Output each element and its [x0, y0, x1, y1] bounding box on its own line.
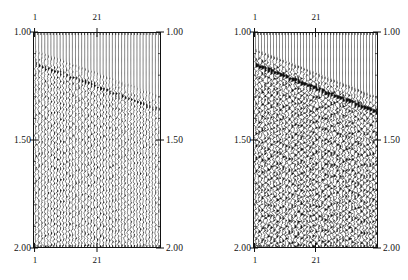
left-panel-frame: [33, 32, 161, 248]
right-panel-time-label-bottom: 2.00: [234, 244, 251, 254]
seismic-figure: 1.00 1.50 2.00 1.00 1.50 2.00 1 21 1 21 …: [0, 0, 408, 280]
left-panel-trace-label-top-21: 21: [92, 13, 101, 22]
left-panel-time-label-top: 1.00: [14, 28, 31, 38]
right-wiggle-traces: [254, 33, 377, 247]
left-panel-time-label-right-top: 1.00: [166, 28, 183, 38]
left-panel-trace-label-top-1: 1: [33, 13, 38, 22]
right-panel-frame: [253, 32, 378, 248]
right-panel-time-label-top: 1.00: [234, 28, 251, 38]
left-seismic-panel: [33, 32, 161, 248]
right-seismic-panel: [253, 32, 378, 248]
left-wiggle-traces: [34, 33, 160, 247]
right-panel-trace-label-bottom-21: 21: [311, 256, 320, 265]
right-panel-time-label-right-top: 1.00: [383, 28, 400, 38]
right-panel-trace-label-top-1: 1: [253, 13, 258, 22]
right-panel-time-label-right-bottom: 2.00: [383, 244, 400, 254]
left-panel-trace-label-bottom-21: 21: [92, 256, 101, 265]
left-panel-time-label-right-bottom: 2.00: [166, 244, 183, 254]
right-panel-time-label-mid: 1.50: [234, 136, 251, 146]
right-panel-trace-label-bottom-1: 1: [253, 256, 258, 265]
right-panel-trace-label-top-21: 21: [311, 13, 320, 22]
right-panel-time-label-right-mid: 1.50: [383, 136, 400, 146]
left-panel-time-label-mid: 1.50: [14, 136, 31, 146]
left-panel-time-label-bottom: 2.00: [14, 244, 31, 254]
left-panel-trace-label-bottom-1: 1: [33, 256, 38, 265]
left-panel-time-label-right-mid: 1.50: [166, 136, 183, 146]
